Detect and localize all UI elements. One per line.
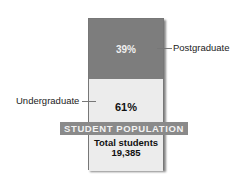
undergraduate-label: Undergraduate <box>16 95 79 106</box>
postgraduate-leader-line <box>157 48 172 49</box>
undergraduate-percent: 61% <box>89 101 163 113</box>
total-value: 19,385 <box>88 148 164 158</box>
postgraduate-label: Postgraduate <box>173 42 230 53</box>
chart-title-banner: STUDENT POPULATION <box>60 122 188 135</box>
total-students: Total students 19,385 <box>88 138 164 158</box>
postgraduate-segment: 39% <box>89 19 163 79</box>
undergraduate-leader-line <box>82 101 96 102</box>
postgraduate-percent: 39% <box>116 44 136 55</box>
